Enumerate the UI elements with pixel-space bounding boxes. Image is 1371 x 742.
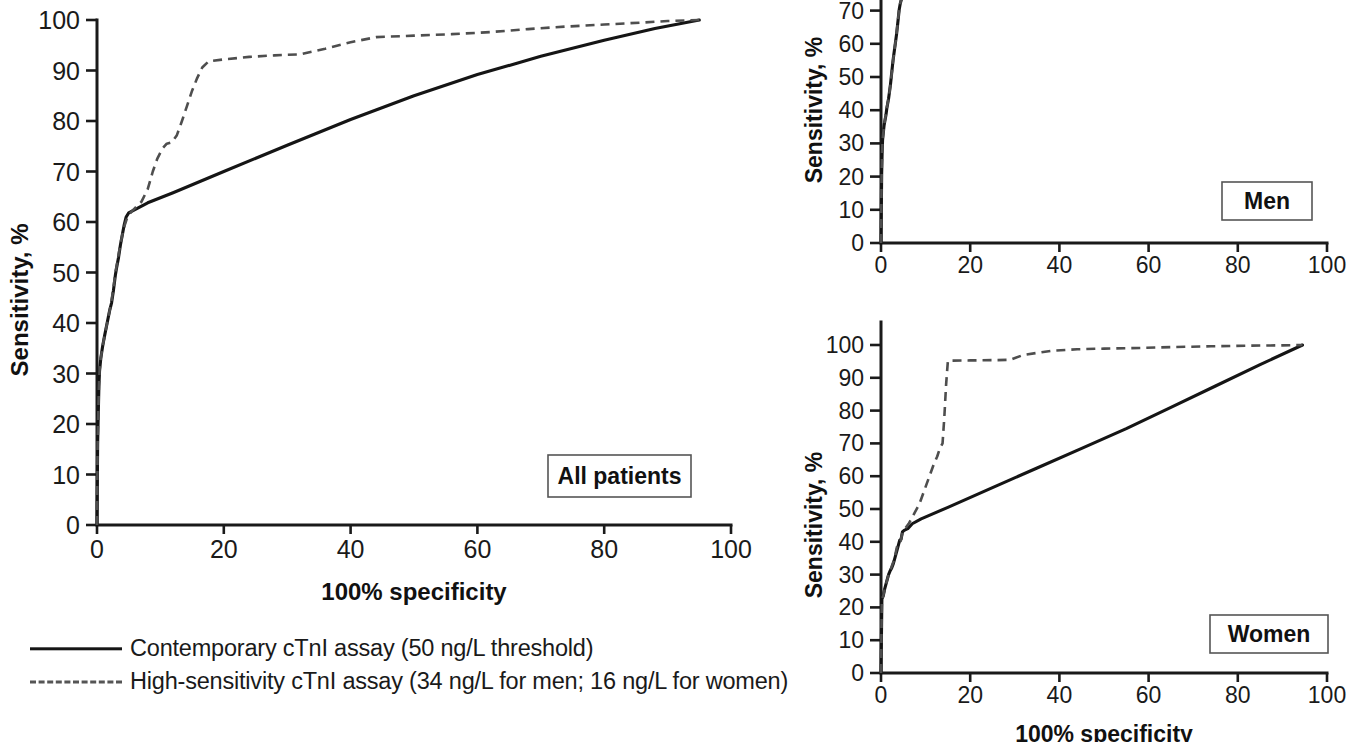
plot-area: 020406080100010203040506070Sensitivity, … [801,0,1346,278]
legend-swatch-solid-icon [30,642,122,656]
x-tick-label: 20 [210,535,238,563]
legend-item-high-sensitivity: High-sensitivity cTnI assay (34 ng/L for… [30,668,788,695]
legend-label-contemporary: Contemporary cTnI assay (50 ng/L thresho… [130,635,593,662]
x-tick-label: 100 [1308,252,1346,278]
y-tick-label: 30 [838,130,864,156]
panel-men: 020406080100010203040506070Sensitivity, … [810,0,1371,290]
y-tick-label: 90 [838,365,864,391]
y-tick-label: 90 [52,57,80,85]
legend-item-contemporary: Contemporary cTnI assay (50 ng/L thresho… [30,635,593,662]
panel-all-patients: 0204060801000102030405060708090100Sensit… [0,0,800,600]
y-tick-label: 60 [52,208,80,236]
y-tick-label: 50 [52,259,80,287]
y-axis-title: Sensitivity, % [6,224,33,377]
x-tick-label: 0 [875,682,888,708]
y-tick-label: 10 [838,197,864,223]
roc-chart-men: 020406080100010203040506070Sensitivity, … [810,0,1371,290]
y-tick-label: 0 [66,511,80,539]
y-tick-label: 40 [838,529,864,555]
x-tick-label: 100 [1308,682,1346,708]
curve-contemporary [97,20,699,525]
x-tick-label: 80 [1225,682,1251,708]
plot-area: 0204060801000102030405060708090100Sensit… [801,322,1346,742]
panel-tag-label: Women [1228,621,1311,647]
x-tick-label: 60 [463,535,491,563]
y-tick-label: 20 [52,410,80,438]
x-tick-label: 100 [710,535,752,563]
y-tick-label: 60 [838,31,864,57]
plot-area: 0204060801000102030405060708090100Sensit… [6,6,752,605]
x-tick-label: 40 [1047,252,1073,278]
y-tick-label: 70 [838,430,864,456]
y-tick-label: 80 [52,107,80,135]
curve-high-sensitivity [881,0,903,243]
y-tick-label: 30 [52,360,80,388]
y-tick-label: 70 [838,0,864,24]
y-tick-label: 50 [838,64,864,90]
roc-chart-women: 0204060801000102030405060708090100Sensit… [810,295,1371,742]
x-tick-label: 60 [1136,252,1162,278]
y-tick-label: 20 [838,164,864,190]
y-tick-label: 0 [851,660,864,686]
panel-tag-label: Men [1244,188,1290,214]
x-tick-label: 20 [957,682,983,708]
x-tick-label: 40 [337,535,365,563]
x-axis-title: 100% specificity [321,578,507,605]
y-tick-label: 80 [838,398,864,424]
legend-swatch-dashed-icon [30,675,122,689]
panel-women: 0204060801000102030405060708090100Sensit… [810,295,1371,742]
y-tick-label: 100 [38,6,80,34]
x-axis-title: 100% specificity [1015,721,1193,742]
y-tick-label: 40 [52,309,80,337]
panel-tag-label: All patients [558,463,682,489]
y-axis-title: Sensitivity, % [801,452,827,599]
curve-high-sensitivity [97,20,699,525]
x-tick-label: 80 [1225,252,1251,278]
y-tick-label: 30 [838,562,864,588]
x-tick-label: 0 [875,252,888,278]
legend-label-high-sensitivity: High-sensitivity cTnI assay (34 ng/L for… [130,668,788,695]
y-tick-label: 60 [838,463,864,489]
y-tick-label: 40 [838,97,864,123]
y-tick-label: 10 [52,461,80,489]
x-tick-label: 60 [1136,682,1162,708]
y-tick-label: 100 [826,332,864,358]
y-tick-label: 20 [838,594,864,620]
x-tick-label: 0 [90,535,104,563]
roc-chart-all-patients: 0204060801000102030405060708090100Sensit… [0,0,800,600]
y-tick-label: 50 [838,496,864,522]
y-tick-label: 0 [851,230,864,256]
x-tick-label: 20 [957,252,983,278]
y-tick-label: 10 [838,627,864,653]
x-tick-label: 40 [1047,682,1073,708]
y-axis-title: Sensitivity, % [801,37,827,184]
x-tick-label: 80 [590,535,618,563]
y-tick-label: 70 [52,158,80,186]
